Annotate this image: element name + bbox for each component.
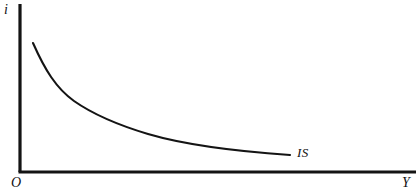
plot-area — [0, 0, 416, 191]
y-axis-label: i — [4, 3, 8, 17]
is-curve-label: IS — [297, 146, 308, 159]
origin-label: O — [11, 176, 21, 190]
is-curve-figure: i O Y IS — [0, 0, 416, 191]
x-axis-label: Y — [402, 176, 410, 190]
is-curve-path — [33, 43, 290, 155]
